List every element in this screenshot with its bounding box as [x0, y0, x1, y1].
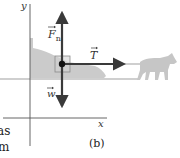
- free-body-diagram: y x Fn T w (b) as m: [0, 0, 180, 158]
- weight-label: w: [47, 89, 56, 99]
- tension-label: T: [90, 50, 97, 61]
- side-text-line-2: m: [0, 141, 9, 153]
- dog-silhouette: [137, 53, 177, 80]
- side-text-line-1: as: [0, 125, 10, 137]
- center-dot: [59, 61, 65, 67]
- panel-label: (b): [89, 138, 105, 149]
- normal-force-subscript: n: [56, 34, 61, 43]
- ground-line: [0, 78, 140, 80]
- normal-force-symbol: F: [48, 28, 56, 41]
- x-axis-label: x: [98, 119, 104, 129]
- normal-force-label: Fn: [48, 29, 61, 43]
- y-axis-label: y: [21, 1, 27, 11]
